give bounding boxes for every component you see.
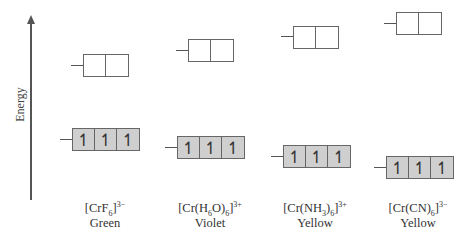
- spin-up-electron-icon: ↿: [200, 137, 222, 158]
- spin-up-electron-icon: ↿: [328, 146, 350, 167]
- spin-up-electron-icon: ↿: [284, 146, 306, 167]
- eg-orbital-set: [188, 39, 234, 62]
- complex-color-name: Violet: [160, 216, 260, 231]
- t2g-level-tick: [60, 139, 72, 140]
- empty-orbital-box: [316, 27, 338, 48]
- arrow-up-icon: [27, 15, 35, 24]
- t2g-level-tick: [271, 156, 283, 157]
- complex-formula: [Cr(NH3)6]3+: [265, 200, 365, 218]
- t2g-level-tick: [165, 147, 177, 148]
- crystal-field-diagram: Energy ↿↿↿[CrF6]3−Green↿↿↿[Cr(H6O)6]3+Vi…: [0, 0, 467, 238]
- energy-axis: [30, 22, 32, 200]
- t2g-orbital-set: ↿↿↿: [72, 128, 140, 151]
- eg-orbital-set: [293, 26, 339, 49]
- empty-orbital-box: [294, 27, 316, 48]
- spin-up-electron-icon: ↿: [117, 129, 139, 150]
- spin-up-electron-icon: ↿: [387, 157, 409, 178]
- spin-up-electron-icon: ↿: [95, 129, 117, 150]
- eg-level-tick: [71, 65, 83, 66]
- spin-up-electron-icon: ↿: [178, 137, 200, 158]
- spin-up-electron-icon: ↿: [222, 137, 244, 158]
- complex-formula: [Cr(CN)6]3−: [368, 200, 467, 218]
- spin-up-electron-icon: ↿: [431, 157, 453, 178]
- empty-orbital-box: [397, 13, 419, 34]
- complex-color-name: Yellow: [265, 216, 365, 231]
- t2g-orbital-set: ↿↿↿: [283, 145, 351, 168]
- t2g-level-tick: [374, 167, 386, 168]
- empty-orbital-box: [189, 40, 211, 61]
- empty-orbital-box: [84, 55, 106, 76]
- eg-level-tick: [384, 23, 396, 24]
- complex-formula: [Cr(H6O)6]3+: [160, 200, 260, 218]
- complex-color-name: Yellow: [368, 216, 467, 231]
- empty-orbital-box: [419, 13, 441, 34]
- empty-orbital-box: [106, 55, 128, 76]
- eg-orbital-set: [396, 12, 442, 35]
- spin-up-electron-icon: ↿: [306, 146, 328, 167]
- t2g-orbital-set: ↿↿↿: [177, 136, 245, 159]
- eg-orbital-set: [83, 54, 129, 77]
- spin-up-electron-icon: ↿: [409, 157, 431, 178]
- complex-color-name: Green: [55, 216, 155, 231]
- t2g-orbital-set: ↿↿↿: [386, 156, 454, 179]
- complex-formula: [CrF6]3−: [55, 200, 155, 218]
- empty-orbital-box: [211, 40, 233, 61]
- eg-level-tick: [281, 36, 293, 37]
- energy-axis-label: Energy: [13, 80, 28, 130]
- eg-level-tick: [176, 50, 188, 51]
- spin-up-electron-icon: ↿: [73, 129, 95, 150]
